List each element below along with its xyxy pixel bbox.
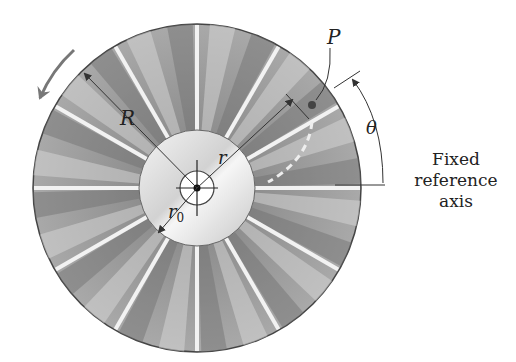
label-P: P (326, 25, 341, 49)
fixed-reference-axis-caption: Fixed reference axis (414, 149, 497, 211)
svg-text:Fixed: Fixed (432, 149, 480, 169)
particle-dot (308, 101, 316, 109)
label-theta: θ (366, 117, 377, 138)
svg-text:axis: axis (439, 191, 473, 211)
svg-text:reference: reference (414, 170, 497, 190)
slotted-disk-diagram: R r r0 P θ Fixed reference axis (0, 0, 516, 362)
label-R: R (119, 106, 135, 130)
label-r: r (218, 147, 228, 168)
